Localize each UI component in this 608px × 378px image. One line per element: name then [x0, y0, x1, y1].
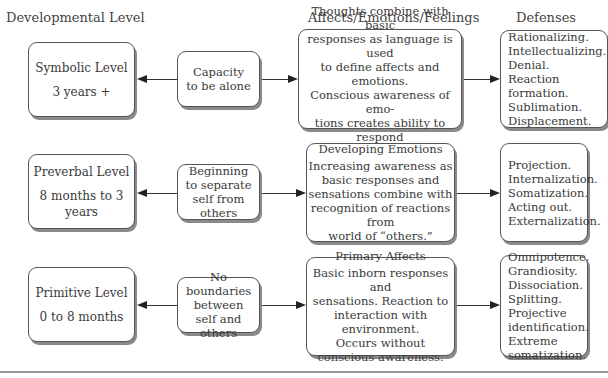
affect-box-developing-emotions: Developing Emotions Increasing awareness…	[306, 143, 455, 242]
connector-line	[457, 193, 490, 194]
arrow-right-icon	[288, 75, 298, 83]
capacity-line: Beginning	[189, 164, 249, 178]
header-defenses: Defenses	[516, 10, 576, 25]
defenses-box-2: Projection. Internalization. Somatizatio…	[500, 143, 588, 242]
connector-line	[262, 305, 296, 306]
affect-title: Primary Affects	[335, 249, 425, 263]
arrow-left-icon	[137, 301, 147, 309]
arrow-right-icon	[296, 301, 306, 309]
arrow-left-icon	[137, 189, 147, 197]
affect-description: Increasing awareness as basic responses …	[307, 159, 454, 243]
capacity-line: self from others	[178, 192, 259, 220]
connector-line	[145, 79, 177, 80]
header-developmental-level: Developmental Level	[6, 10, 145, 25]
connector-line	[464, 79, 490, 80]
arrow-right-icon	[490, 75, 500, 83]
capacity-line: Capacity	[193, 65, 244, 79]
arrow-right-icon	[490, 189, 500, 197]
bottom-divider	[0, 371, 608, 373]
capacity-box-3: No boundaries between self and others	[177, 277, 260, 333]
level-title: Primitive Level	[35, 285, 127, 301]
level-title: Preverbal Level	[34, 164, 130, 180]
affect-description: Basic inborn responses and sensations. R…	[307, 266, 454, 364]
connector-line	[262, 79, 288, 80]
capacity-line: to separate	[186, 178, 252, 192]
capacity-line: No boundaries	[178, 270, 259, 298]
affect-box-primary-affects: Primary Affects Basic inborn responses a…	[306, 257, 455, 356]
arrow-left-icon	[137, 75, 147, 83]
affect-title: Developing Emotions	[318, 142, 442, 156]
level-age: 8 months to 3 years	[29, 188, 134, 220]
level-box-primitive: Primitive Level 0 to 8 months	[28, 267, 135, 342]
connector-line	[145, 305, 177, 306]
capacity-line: to be alone	[186, 79, 251, 93]
connector-line	[145, 193, 177, 194]
level-age: 3 years +	[52, 84, 110, 100]
capacity-box-2: Beginning to separate self from others	[177, 164, 260, 220]
arrow-right-icon	[490, 301, 500, 309]
connector-line	[262, 193, 296, 194]
capacity-box-1: Capacity to be alone	[177, 51, 260, 107]
level-title: Symbolic Level	[35, 60, 127, 76]
level-age: 0 to 8 months	[40, 309, 124, 325]
capacity-line: self and others	[178, 312, 259, 340]
defenses-box-1: Rationalizing. Intellectualizing. Denial…	[500, 30, 608, 128]
level-box-symbolic: Symbolic Level 3 years +	[28, 42, 135, 117]
defenses-box-3: Omnipotence. Grandiosity. Dissociation. …	[500, 255, 588, 357]
capacity-line: between	[194, 298, 244, 312]
level-box-preverbal: Preverbal Level 8 months to 3 years	[28, 154, 135, 229]
connector-line	[457, 305, 490, 306]
affect-title: Complex Feelings	[328, 0, 432, 1]
affect-box-complex-feelings: Complex Feelings Thoughts combine with b…	[298, 29, 462, 129]
arrow-right-icon	[296, 189, 306, 197]
